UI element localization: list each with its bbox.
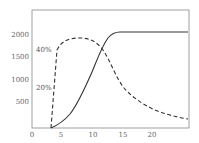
x-tick-20: 20 [148,131,157,139]
x-tick-5: 5 [59,131,63,139]
y-axis-ticks: 2000 1500 1000 500 [11,31,29,106]
x-tick-10: 10 [89,131,98,139]
x-tick-15: 15 [119,131,128,139]
y-tick-2000: 2000 [11,31,29,39]
label-20-percent: 20% [36,84,52,92]
line-chart: 2000 1500 1000 500 0 5 10 15 20 40% 20% [0,0,199,143]
x-tick-0: 0 [30,131,34,139]
x-axis-ticks: 0 5 10 15 20 [30,131,157,139]
solid-series-line [51,32,188,128]
dashed-series-line [51,38,188,128]
label-40-percent: 40% [36,46,52,54]
y-tick-500: 500 [16,98,29,106]
y-tick-1000: 1000 [11,76,29,84]
y-tick-1500: 1500 [11,53,29,61]
